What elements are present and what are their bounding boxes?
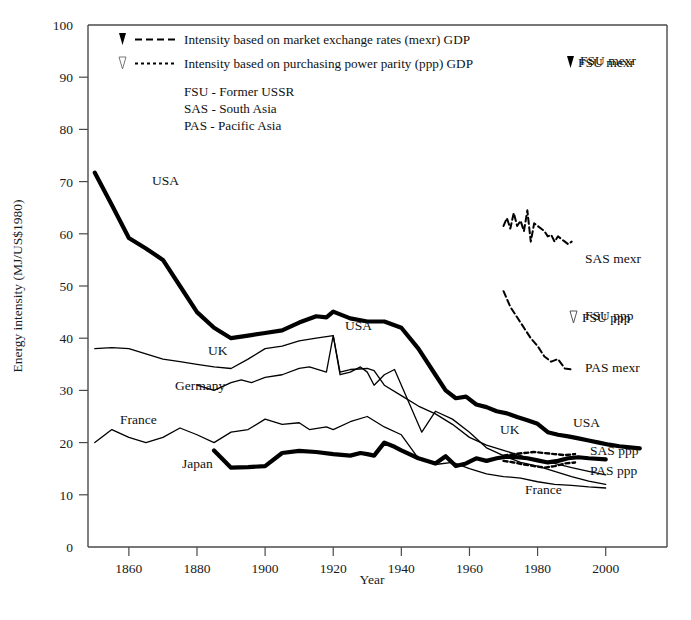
x-tick-label: 1900 xyxy=(252,561,279,576)
y-tick-label: 70 xyxy=(60,175,74,190)
annotation-label: SAS ppp xyxy=(590,443,639,458)
x-tick-label: 1960 xyxy=(456,561,483,576)
annotation-label: Japan xyxy=(182,456,213,471)
y-tick-label: 20 xyxy=(60,436,74,451)
annotation-label: UK xyxy=(208,343,228,358)
legend-label-mexr: Intensity based on market exchange rates… xyxy=(184,32,470,47)
energy-intensity-line-chart: 0102030405060708090100 18601880190019201… xyxy=(0,0,691,620)
annotation-label: France xyxy=(525,482,562,497)
y-tick-label: 0 xyxy=(66,540,73,555)
annotation-label: UK xyxy=(500,422,520,437)
fsu-ppp-key-label: FSU ppp xyxy=(582,310,631,325)
y-tick-label: 30 xyxy=(60,383,74,398)
abbreviation-line: FSU - Former USSR xyxy=(184,84,294,99)
y-tick-label: 40 xyxy=(60,331,74,346)
x-tick-label: 1880 xyxy=(183,561,210,576)
x-tick-label: 1940 xyxy=(388,561,415,576)
x-tick-label: 1920 xyxy=(320,561,347,576)
annotation-label: USA xyxy=(345,318,372,333)
y-tick-label: 50 xyxy=(60,279,74,294)
x-axis-title: Year xyxy=(360,572,385,587)
y-tick-label: 10 xyxy=(60,488,74,503)
fsu-mexr-key-label: FSU mexr xyxy=(578,55,634,70)
x-tick-label: 2000 xyxy=(592,561,619,576)
y-tick-label: 90 xyxy=(60,70,74,85)
y-tick-label: 60 xyxy=(60,227,74,242)
abbreviation-line: SAS - South Asia xyxy=(184,101,277,116)
fsu-mexr-key: FSU mexr xyxy=(567,55,634,70)
annotation-label: USA xyxy=(573,415,600,430)
legend-label-ppp: Intensity based on purchasing power pari… xyxy=(184,56,473,71)
y-tick-label: 100 xyxy=(53,18,74,33)
annotation-label: SAS mexr xyxy=(585,251,641,266)
y-tick-label: 80 xyxy=(60,122,74,137)
abbreviation-line: PAS - Pacific Asia xyxy=(184,118,281,133)
chart-figure: 0102030405060708090100 18601880190019201… xyxy=(0,0,691,620)
y-axis-title: Energy intensity (MJ/US$1980) xyxy=(10,200,25,373)
x-tick-label: 1980 xyxy=(524,561,551,576)
annotation-label: PAS mexr xyxy=(585,360,640,375)
annotation-label: Germany xyxy=(175,378,225,393)
annotation-label: France xyxy=(120,412,157,427)
annotation-label: USA xyxy=(152,173,179,188)
annotation-label: PAS ppp xyxy=(590,463,637,478)
x-tick-label: 1860 xyxy=(115,561,142,576)
